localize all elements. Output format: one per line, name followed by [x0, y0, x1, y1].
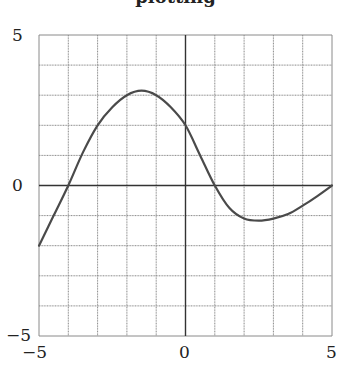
line-chart: 5 0 −5 −5 0 5	[0, 0, 351, 382]
axes	[39, 35, 332, 336]
y-tick-5: 5	[12, 25, 23, 45]
x-tick-0: 0	[179, 342, 190, 362]
y-tick-0: 0	[12, 175, 23, 195]
x-tick-5: 5	[326, 342, 337, 362]
x-tick-neg5: −5	[22, 342, 47, 362]
